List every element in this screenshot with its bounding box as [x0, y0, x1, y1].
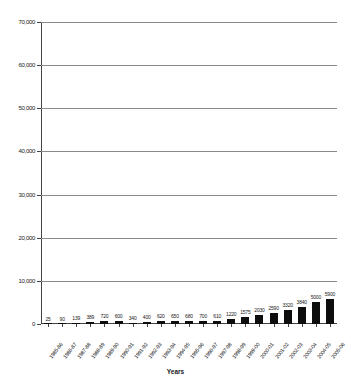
x-axis-category-label: 1999-00 — [245, 341, 261, 359]
bar-value-label: 25 — [45, 316, 50, 322]
x-axis-category-label: 1988-89 — [90, 341, 106, 359]
bar-slot: 2030 — [252, 22, 266, 324]
bar-slot: 610 — [210, 22, 224, 324]
x-axis-category-label: 1989-90 — [104, 341, 120, 359]
bar-series: 2590139389720600340400620650680700610122… — [41, 22, 337, 324]
bar-value-label: 600 — [115, 313, 123, 319]
bar-value-label: 389 — [86, 314, 94, 320]
bar — [270, 313, 278, 324]
bar-slot: 600 — [111, 22, 125, 324]
x-axis-category-label: 2001-02 — [273, 341, 289, 359]
bar-value-label: 139 — [72, 315, 80, 321]
bar-value-label: 5900 — [325, 291, 335, 297]
y-axis-tick-label: 10,000 — [18, 278, 35, 284]
x-axis-category-label: 1990-91 — [118, 341, 134, 359]
bar-slot: 720 — [97, 22, 111, 324]
bar-slot: 700 — [196, 22, 210, 324]
y-axis-tick-label: 40,000 — [18, 148, 35, 154]
y-axis-tick-label: 30,000 — [18, 192, 35, 198]
bar-value-label: 650 — [171, 313, 179, 319]
bar-slot: 25 — [41, 22, 55, 324]
bar — [284, 310, 292, 324]
bar — [255, 315, 263, 324]
x-axis-category-label: 1992-93 — [146, 341, 162, 359]
y-axis-tick — [37, 324, 41, 325]
bar-slot: 680 — [182, 22, 196, 324]
x-axis-category-label: 1985-86 — [48, 341, 64, 359]
bar — [298, 307, 306, 324]
bar-value-label: 1220 — [226, 311, 236, 317]
y-axis-tick-label: 70,000 — [18, 19, 35, 25]
bar-value-label: 400 — [143, 314, 151, 320]
plot-area: 70,00060,00050,00040,00030,00020,00010,0… — [41, 22, 337, 324]
bar-value-label: 680 — [185, 313, 193, 319]
x-axis-category-label: 1994-95 — [175, 341, 191, 359]
x-axis-category-label: 1998-99 — [231, 341, 247, 359]
bar-slot: 5900 — [323, 22, 337, 324]
bar — [241, 317, 249, 324]
bar-value-label: 2590 — [268, 305, 278, 311]
bar-value-label: 1575 — [240, 309, 250, 315]
y-axis-tick-label: 20,000 — [18, 235, 35, 241]
x-axis-category-label: 1997-98 — [217, 341, 233, 359]
bar-value-label: 620 — [157, 313, 165, 319]
y-axis-tick-label: 50,000 — [18, 105, 35, 111]
bar-value-label: 700 — [199, 313, 207, 319]
x-axis-category-label: 1986-87 — [62, 341, 78, 359]
x-axis-category-label: 2004-05 — [316, 341, 332, 359]
x-axis-category-labels: 1985-861986-871987-881988-891989-901990-… — [41, 327, 337, 373]
bar-slot: 389 — [83, 22, 97, 324]
bar-slot: 1220 — [224, 22, 238, 324]
bar-value-label: 340 — [129, 315, 137, 321]
bar-slot: 139 — [69, 22, 83, 324]
x-axis-category-label: 1993-94 — [161, 341, 177, 359]
bar-value-label: 3320 — [282, 302, 292, 308]
bar-value-label: 3840 — [297, 299, 307, 305]
bar-value-label: 720 — [101, 313, 109, 319]
y-axis-tick-label: 60,000 — [18, 62, 35, 68]
bar-slot: 5000 — [309, 22, 323, 324]
x-axis-category-label: 1995-96 — [189, 341, 205, 359]
x-axis-title: Years — [0, 368, 351, 375]
x-axis-category-label: 1996-97 — [203, 341, 219, 359]
bar-slot: 1575 — [238, 22, 252, 324]
bar-slot: 2590 — [267, 22, 281, 324]
x-axis-category-label: 1987-88 — [76, 341, 92, 359]
bar-slot: 400 — [140, 22, 154, 324]
bar-value-label: 90 — [60, 316, 65, 322]
bar-slot: 90 — [55, 22, 69, 324]
bar-value-label: 5000 — [311, 294, 321, 300]
bar-slot: 340 — [126, 22, 140, 324]
bar — [312, 302, 320, 324]
bar-slot: 3320 — [281, 22, 295, 324]
x-axis-category-label: 2000-01 — [259, 341, 275, 359]
x-axis-category-label: 2005-06 — [330, 341, 346, 359]
bar-value-label: 610 — [213, 313, 221, 319]
bar-slot: 650 — [168, 22, 182, 324]
bar-chart: 70,00060,00050,00040,00030,00020,00010,0… — [0, 0, 351, 390]
bar-slot: 620 — [154, 22, 168, 324]
bar — [326, 299, 334, 324]
bar-value-label: 2030 — [254, 307, 264, 313]
x-axis-category-label: 2003-04 — [301, 341, 317, 359]
y-axis-tick-label: 0 — [32, 321, 35, 327]
bar-slot: 3840 — [295, 22, 309, 324]
